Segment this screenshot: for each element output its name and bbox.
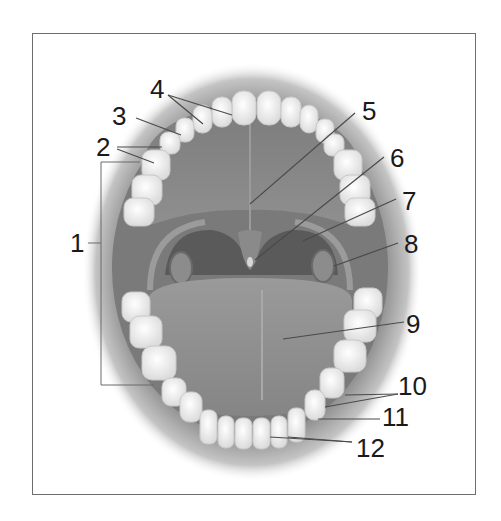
label-8-tonsil: 8 [404, 231, 418, 257]
label-6-uvula: 6 [390, 145, 404, 171]
mouth-anatomy-diagram: 1 2 3 4 5 6 7 8 9 10 11 12 [0, 0, 501, 521]
label-7-palatine-arch: 7 [402, 188, 416, 214]
tonsil-right [312, 250, 334, 282]
label-9-tongue: 9 [406, 311, 420, 337]
mouth-illustration [0, 0, 501, 521]
label-10-premolars-lower: 10 [398, 373, 427, 399]
label-11-canine-lower: 11 [382, 404, 409, 430]
label-1-molars-premolars-group: 1 [70, 230, 84, 256]
label-2-premolars: 2 [96, 134, 110, 160]
label-4-incisors: 4 [150, 76, 164, 102]
tonsil-left [170, 252, 192, 284]
label-12-incisors-lower: 12 [356, 435, 385, 461]
label-3-canine: 3 [112, 103, 126, 129]
label-5-hard-palate: 5 [362, 98, 376, 124]
